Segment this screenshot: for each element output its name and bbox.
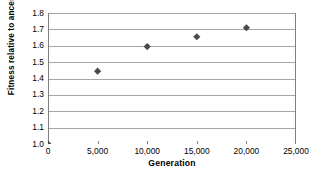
fitness-scatter-chart: Fitness relative to ancestor 1.01.11.21.… bbox=[0, 0, 326, 175]
y-tick-label: 1.7 bbox=[4, 25, 48, 34]
data-point-marker bbox=[193, 33, 200, 40]
y-tick-label: 1.5 bbox=[4, 58, 48, 67]
data-point-marker bbox=[144, 43, 151, 50]
x-tick-label: 25,000 bbox=[266, 147, 326, 156]
data-point-marker bbox=[243, 24, 250, 31]
y-tick-label: 1.6 bbox=[4, 41, 48, 50]
plot-svg bbox=[48, 13, 296, 144]
data-point-marker bbox=[94, 68, 101, 75]
data-point-marker bbox=[48, 140, 52, 144]
y-tick-label: 1.4 bbox=[4, 74, 48, 83]
y-tick-label: 1.2 bbox=[4, 107, 48, 116]
y-tick-label: 1.3 bbox=[4, 90, 48, 99]
y-tick-label: 1.1 bbox=[4, 123, 48, 132]
plot-area bbox=[48, 13, 296, 144]
x-axis-title: Generation bbox=[48, 158, 296, 168]
y-tick-label: 1.8 bbox=[4, 9, 48, 18]
